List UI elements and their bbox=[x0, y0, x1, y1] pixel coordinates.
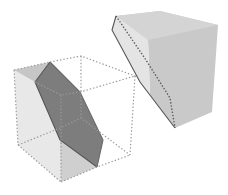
cube-edge-top-right bbox=[80, 76, 135, 92]
figure-canvas bbox=[0, 0, 228, 195]
separated-piece bbox=[112, 11, 218, 128]
cube-with-section bbox=[14, 56, 135, 182]
cube-edge-top-back bbox=[50, 56, 135, 76]
cube-edge-right-vertical bbox=[130, 76, 135, 155]
diagram-svg bbox=[0, 0, 228, 195]
